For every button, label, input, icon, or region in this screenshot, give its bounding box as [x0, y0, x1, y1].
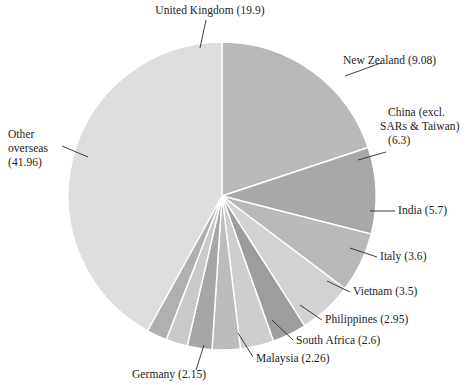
label-germany: Germany (2.15): [132, 368, 206, 382]
label-south-africa: South Africa (2.6): [296, 334, 380, 348]
label-india: India (5.7): [398, 204, 447, 218]
label-philippines: Philippines (2.95): [325, 313, 408, 327]
label-china-line1: China (excl.: [388, 106, 445, 120]
label-malaysia: Malaysia (2.26): [256, 352, 330, 366]
label-vietnam: Vietnam (3.5): [353, 285, 417, 299]
label-other-overseas-line3: (41.96): [8, 156, 42, 170]
pie-slices: [68, 42, 376, 350]
label-new-zealand: New Zealand (9.08): [343, 54, 436, 68]
label-other-overseas-line2: overseas: [8, 142, 48, 156]
label-italy: Italy (3.6): [380, 250, 427, 264]
label-china-line3: (6.3): [388, 134, 410, 148]
label-china-line2: SARs & Taiwan): [380, 120, 460, 134]
pie-chart-figure: United Kingdom (19.9) New Zealand (9.08)…: [0, 0, 469, 385]
label-united-kingdom: United Kingdom (19.9): [100, 4, 320, 18]
label-other-overseas-line1: Other: [8, 128, 34, 142]
